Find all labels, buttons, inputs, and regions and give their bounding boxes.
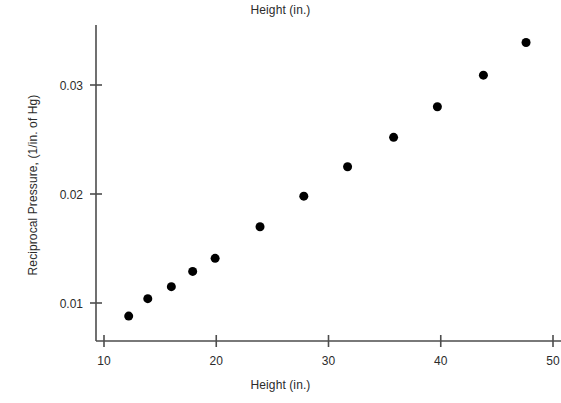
data-point [188, 267, 197, 276]
data-point [167, 282, 176, 291]
data-point [143, 294, 152, 303]
data-point [389, 133, 398, 142]
x-axis-tick-label: 20 [210, 354, 224, 368]
x-axis-tick-label: 10 [97, 354, 111, 368]
data-point [343, 162, 352, 171]
data-point [124, 312, 133, 321]
y-axis-tick-label: 0.01 [60, 297, 84, 311]
data-point [211, 254, 220, 263]
data-point [522, 38, 531, 47]
data-point [479, 71, 488, 80]
data-point [299, 192, 308, 201]
scatter-chart: Height (in.) 10203040500.010.020.03 Reci… [0, 0, 561, 403]
y-axis-title: Reciprocal Pressure, (1/in. of Hg) [26, 55, 40, 315]
x-axis-tick-label: 40 [434, 354, 448, 368]
y-axis-tick-label: 0.02 [60, 188, 84, 202]
plot-area: 10203040500.010.020.03 [0, 0, 561, 403]
x-axis-tick-label: 30 [322, 354, 336, 368]
y-axis-tick-label: 0.03 [60, 79, 84, 93]
x-axis-tick-label: 50 [546, 354, 560, 368]
data-point [256, 222, 265, 231]
data-point [433, 102, 442, 111]
x-axis-title: Height (in.) [0, 378, 561, 392]
